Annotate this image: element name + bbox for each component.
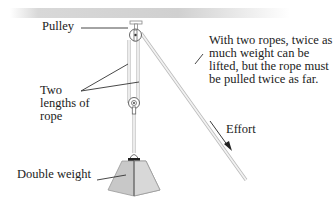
effort-label: Effort — [226, 123, 256, 136]
pulley-label: Pulley — [42, 20, 74, 33]
double-weight-icon — [108, 155, 160, 197]
moving-pulley — [129, 98, 140, 115]
fixed-pulley — [130, 29, 142, 41]
double-weight-label: Double weight — [17, 168, 91, 181]
rope-lengths — [129, 40, 138, 153]
rope-lengths-label: Two lengths of rope — [40, 84, 100, 123]
description-text: With two ropes, twice as much weight can… — [209, 34, 333, 86]
